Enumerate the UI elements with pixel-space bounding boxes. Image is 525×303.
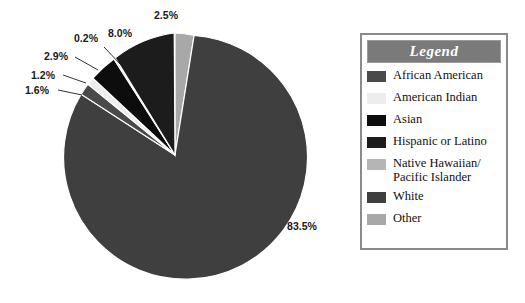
pie-label-american-indian: 1.2% — [31, 69, 56, 81]
legend-item-african-american[interactable]: African American — [367, 68, 501, 85]
pie-label-asian: 2.9% — [44, 50, 69, 62]
legend-swatch-african-american — [367, 71, 386, 82]
legend-swatch-other — [367, 214, 386, 225]
leader-line-american-indian — [63, 75, 86, 83]
pie-label-other: 2.5% — [154, 9, 179, 21]
legend-item-hispanic-or-latino[interactable]: Hispanic or Latino — [367, 134, 501, 151]
pie-label-native-hawaiian: 0.2% — [74, 32, 99, 44]
legend-item-other[interactable]: Other — [367, 211, 501, 228]
legend-swatch-white — [367, 192, 386, 203]
pie-label-white: 83.5% — [287, 220, 317, 232]
legend-swatch-asian — [367, 115, 386, 126]
legend-label-hispanic-or-latino: Hispanic or Latino — [393, 134, 487, 148]
legend-title: Legend — [367, 40, 501, 63]
legend-swatch-american-indian — [367, 93, 386, 104]
pie-chart-figure: 2.5% 8.0% 0.2% 2.9% 1.2% 1.6% 83.5% Lege… — [0, 0, 525, 303]
leader-line-asian — [75, 57, 98, 70]
legend-item-white[interactable]: White — [367, 189, 501, 206]
legend-item-american-indian[interactable]: American Indian — [367, 90, 501, 107]
legend-swatch-hispanic-or-latino — [367, 137, 386, 148]
pie-svg: 2.5% 8.0% 0.2% 2.9% 1.2% 1.6% 83.5% — [0, 0, 350, 303]
pie-chart-plot-area: 2.5% 8.0% 0.2% 2.9% 1.2% 1.6% 83.5% — [0, 0, 350, 303]
legend-label-white: White — [393, 189, 424, 203]
legend-label-african-american: African American — [393, 68, 483, 82]
legend-box: Legend African American American Indian … — [360, 33, 508, 250]
legend-label-other: Other — [393, 211, 421, 225]
legend-label-american-indian: American Indian — [393, 90, 477, 104]
pie-label-hispanic-or-latino: 8.0% — [108, 27, 133, 39]
pie-label-african-american: 1.6% — [25, 84, 50, 96]
legend-label-asian: Asian — [393, 112, 422, 126]
leader-line-african-american — [58, 90, 82, 95]
legend-label-native-hawaiian: Native Hawaiian/ Pacific Islander — [393, 156, 481, 184]
legend-item-asian[interactable]: Asian — [367, 112, 501, 129]
legend-item-native-hawaiian[interactable]: Native Hawaiian/ Pacific Islander — [367, 156, 501, 184]
legend-swatch-native-hawaiian — [367, 159, 386, 170]
